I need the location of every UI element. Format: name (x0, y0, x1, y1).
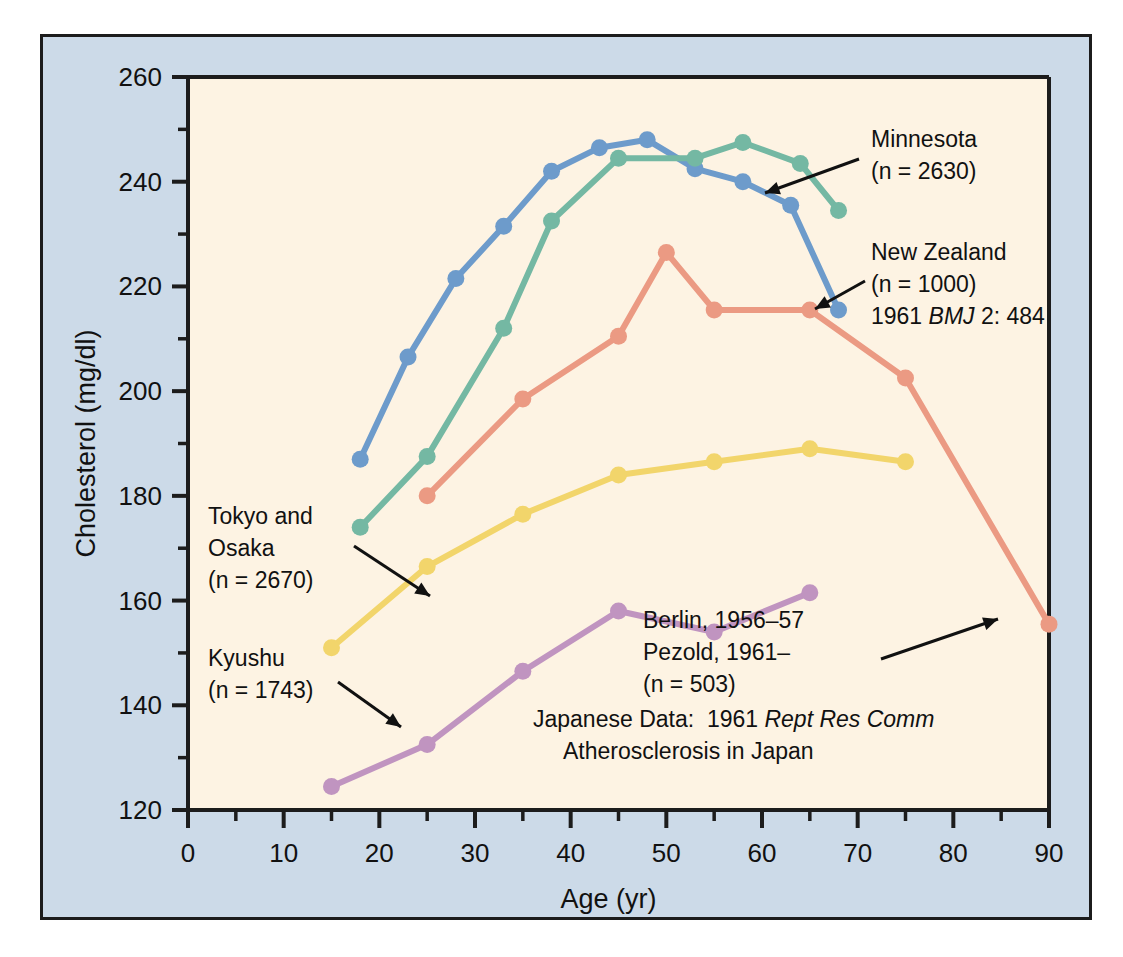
data-point (514, 663, 531, 680)
y-axis-title: Cholesterol (mg/dl) (71, 329, 101, 557)
data-point (897, 370, 914, 387)
y-tick-label: 140 (119, 690, 162, 720)
data-point (400, 349, 417, 366)
y-tick-label: 160 (119, 586, 162, 616)
figure-panel: 1201401601802002202402600102030405060708… (40, 34, 1092, 920)
data-point (543, 212, 560, 229)
data-point (897, 453, 914, 470)
data-point (734, 134, 751, 151)
data-point (658, 244, 675, 261)
annotation-tokyo-line1: Tokyo and (208, 503, 313, 529)
data-point (687, 150, 704, 167)
annotation-berlin-line1: Berlin, 1956–57 (643, 607, 804, 633)
x-tick-label: 30 (461, 838, 490, 868)
data-point (419, 448, 436, 465)
data-point (323, 778, 340, 795)
note-journal: Rept Res Comm (764, 706, 934, 732)
nz-year: 1961 (871, 303, 929, 329)
data-point (830, 301, 847, 318)
data-point (352, 451, 369, 468)
annotation-newzealand-line3: 1961 BMJ 2: 484 (871, 303, 1045, 329)
data-point (734, 173, 751, 190)
data-point (419, 487, 436, 504)
data-point (514, 506, 531, 523)
x-tick-label: 50 (652, 838, 681, 868)
data-point (610, 603, 627, 620)
x-tick-label: 60 (748, 838, 777, 868)
data-point (1041, 616, 1058, 633)
annotation-berlin-line3: (n = 503) (643, 671, 736, 697)
annotation-minnesota-line2: (n = 2630) (871, 158, 977, 184)
source-note-line2: Atherosclerosis in Japan (563, 738, 814, 764)
y-tick-label: 120 (119, 795, 162, 825)
annotation-tokyo-line2: Osaka (208, 535, 275, 561)
data-point (543, 163, 560, 180)
x-tick-label: 0 (181, 838, 195, 868)
nz-journal: BMJ (929, 303, 976, 329)
data-point (419, 736, 436, 753)
x-tick-label: 90 (1035, 838, 1064, 868)
data-point (801, 584, 818, 601)
data-point (639, 131, 656, 148)
x-axis-title: Age (yr) (560, 884, 656, 914)
data-point (610, 150, 627, 167)
data-point (447, 270, 464, 287)
y-tick-label: 260 (119, 62, 162, 92)
y-tick-label: 240 (119, 167, 162, 197)
data-point (706, 453, 723, 470)
x-tick-label: 20 (365, 838, 394, 868)
data-point (801, 440, 818, 457)
note-prefix: Japanese Data: 1961 (533, 706, 764, 732)
plot-area-background (188, 77, 1049, 810)
source-note-line1: Japanese Data: 1961 Rept Res Comm (533, 706, 934, 732)
data-point (419, 558, 436, 575)
annotation-berlin-line2: Pezold, 1961– (643, 639, 790, 665)
data-point (782, 197, 799, 214)
x-tick-label: 10 (269, 838, 298, 868)
annotation-minnesota-line1: Minnesota (871, 126, 977, 152)
data-point (352, 519, 369, 536)
annotation-newzealand-line2: (n = 1000) (871, 271, 977, 297)
annotation-tokyo-line3: (n = 2670) (208, 567, 314, 593)
x-tick-label: 40 (556, 838, 585, 868)
data-point (792, 155, 809, 172)
data-point (610, 328, 627, 345)
data-point (495, 320, 512, 337)
data-point (495, 218, 512, 235)
y-tick-label: 200 (119, 376, 162, 406)
annotation-kyushu-line2: (n = 1743) (208, 677, 314, 703)
cholesterol-age-chart: 1201401601802002202402600102030405060708… (43, 37, 1089, 917)
x-tick-label: 70 (843, 838, 872, 868)
annotation-kyushu-line1: Kyushu (208, 645, 285, 671)
annotation-newzealand-line1: New Zealand (871, 239, 1007, 265)
data-point (514, 390, 531, 407)
data-point (706, 301, 723, 318)
y-tick-label: 180 (119, 481, 162, 511)
data-point (830, 202, 847, 219)
data-point (610, 466, 627, 483)
y-tick-label: 220 (119, 271, 162, 301)
data-point (323, 639, 340, 656)
x-tick-label: 80 (939, 838, 968, 868)
data-point (591, 139, 608, 156)
nz-citation: 2: 484 (975, 303, 1046, 329)
